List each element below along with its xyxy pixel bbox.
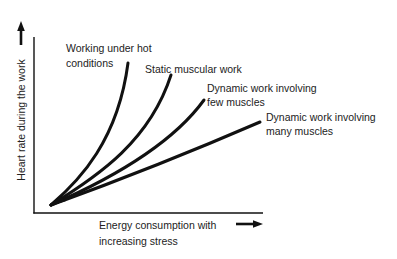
label-dynamic-many-line2: many muscles: [266, 125, 333, 138]
label-dynamic-few-line1: Dynamic work involving: [207, 82, 317, 95]
x-axis-label-line2: increasing stress: [99, 235, 178, 248]
label-dynamic-few-line2: few muscles: [207, 96, 265, 109]
x-axis-label-line1: Energy consumption with: [99, 219, 216, 232]
y-axis-arrow-icon: [17, 21, 25, 45]
curve-static-muscular: [51, 75, 171, 205]
y-axis-label: Heart rate during the work: [15, 59, 27, 180]
label-static-muscular: Static muscular work: [145, 63, 242, 76]
label-hot-conditions-line2: conditions: [66, 57, 113, 70]
curve-dynamic-many-muscles: [51, 122, 260, 205]
label-dynamic-many-line1: Dynamic work involving: [266, 111, 376, 124]
x-axis-arrow-icon: [236, 220, 263, 227]
label-hot-conditions-line1: Working under hot: [66, 42, 152, 55]
curve-hot-conditions: [51, 63, 128, 205]
